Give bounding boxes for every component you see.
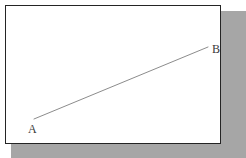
segment-ab — [34, 47, 208, 119]
figure-root: A B — [0, 0, 246, 158]
point-a-label: A — [28, 123, 37, 135]
figure-canvas — [5, 5, 221, 144]
point-b-label: B — [212, 43, 220, 55]
segment-svg — [5, 5, 221, 144]
